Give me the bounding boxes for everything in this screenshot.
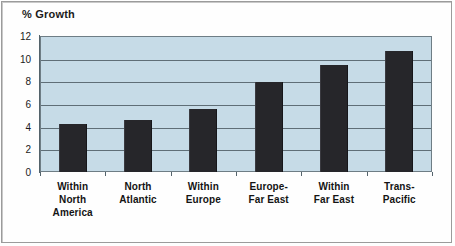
- x-axis-category-label: Within North America: [40, 180, 105, 219]
- x-tick: [432, 172, 433, 176]
- x-tick: [367, 172, 368, 176]
- y-tick-label: 2: [25, 144, 31, 155]
- x-tick: [171, 172, 172, 176]
- bars-layer: [40, 36, 432, 172]
- x-tick: [105, 172, 106, 176]
- x-axis: Within North AmericaNorth AtlanticWithin…: [40, 172, 432, 232]
- x-axis-category-label: Europe- Far East: [236, 180, 301, 206]
- y-axis: 024681012: [0, 36, 36, 172]
- x-axis-category-label: Within Europe: [171, 180, 236, 206]
- bar: [189, 109, 217, 172]
- chart-screenshot: % Growth 024681012 Within North AmericaN…: [0, 0, 455, 246]
- bar: [124, 120, 152, 172]
- y-tick-label: 10: [20, 53, 31, 64]
- y-tick-label: 6: [25, 99, 31, 110]
- y-tick-label: 8: [25, 76, 31, 87]
- x-tick: [301, 172, 302, 176]
- bar: [385, 51, 413, 172]
- bar: [320, 65, 348, 172]
- x-axis-category-label: Trans- Pacific: [367, 180, 432, 206]
- x-axis-category-label: Within Far East: [301, 180, 366, 206]
- x-axis-category-label: North Atlantic: [105, 180, 170, 206]
- chart-title: % Growth: [22, 8, 75, 20]
- bar: [59, 124, 87, 172]
- y-tick-label: 0: [25, 167, 31, 178]
- x-tick: [236, 172, 237, 176]
- bar: [255, 82, 283, 172]
- y-tick-label: 12: [20, 31, 31, 42]
- y-tick-label: 4: [25, 121, 31, 132]
- x-tick: [40, 172, 41, 176]
